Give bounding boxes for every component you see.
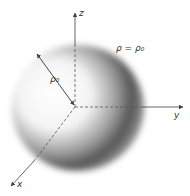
x-axis-label: x (17, 180, 22, 189)
radius-label: ρ₀ (50, 75, 59, 84)
x-axis (11, 161, 34, 186)
equation-label: ρ = ρ₀ (116, 44, 144, 53)
sphere (12, 45, 144, 171)
y-axis-label: y (174, 111, 179, 120)
z-axis-label: z (79, 9, 84, 18)
sphere-diagram-svg (0, 0, 190, 196)
sphere-diagram: z y x ρ₀ ρ = ρ₀ (0, 0, 190, 196)
